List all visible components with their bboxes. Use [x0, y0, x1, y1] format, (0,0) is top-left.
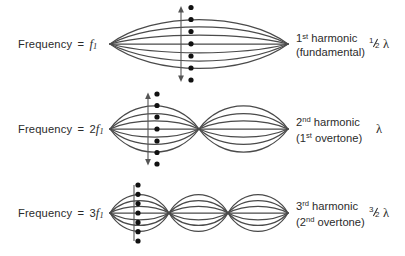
harmonic-row-2: Frequency = 2f1 [0, 86, 405, 172]
antinode-dots-2 [154, 91, 159, 166]
frequency-subscript-1: 1 [93, 42, 97, 51]
wavelength-fraction-1: 1 2 [369, 37, 382, 50]
equals-sign-1: = [75, 38, 86, 50]
frequency-word-3: Frequency [18, 207, 72, 219]
frequency-word-1: Frequency [18, 38, 72, 50]
harmonic-label-2: 2nd harmonic (1st overtone) [296, 113, 362, 144]
wave-curves-1 [110, 20, 288, 69]
lambda-symbol-1: λ [383, 37, 389, 51]
equals-sign-3: = [75, 207, 86, 219]
overtone-text-1: (fundamental) [296, 45, 365, 58]
harmonic-row-1: Frequency = f1 [0, 0, 405, 88]
harmonic-ordinal-1: st [302, 32, 308, 41]
frequency-label-2: Frequency = 2f1 [18, 122, 104, 137]
overtone-ordinal-2: st [306, 131, 312, 140]
overtone-word-2: overtone [315, 131, 359, 143]
antinode-dots-1 [188, 5, 193, 83]
overtone-ordinal-3: nd [306, 215, 314, 224]
wavelength-fraction-3: 3 2 [369, 206, 382, 219]
overtone-word-3: overtone [318, 215, 362, 227]
lambda-symbol-3: λ [383, 206, 389, 220]
harmonic-ordinal-2: nd [302, 115, 310, 124]
overtone-text-3: (2nd overtone) [296, 213, 365, 229]
harmonic-ordinal-3: rd [302, 199, 309, 208]
frequency-word-2: Frequency [18, 123, 72, 135]
harmonics-diagram: Frequency = f1 [0, 0, 405, 256]
antinode-dots-3 [135, 182, 140, 243]
lambda-symbol-2: λ [376, 122, 382, 136]
frequency-label-1: Frequency = f1 [18, 37, 97, 52]
wavelength-numerator-1: 1 [369, 36, 373, 45]
wavelength-denominator-3: 2 [375, 210, 379, 219]
frequency-label-3: Frequency = 3f1 [18, 206, 104, 221]
wavelength-numerator-3: 3 [369, 205, 373, 214]
overtone-text-2: (1st overtone) [296, 129, 362, 145]
harmonic-label-1: 1st harmonic (fundamental) [296, 30, 365, 59]
wavelength-label-2: λ [375, 122, 382, 137]
wave-graphic-3 [100, 170, 300, 256]
wave-curves-2 [110, 106, 288, 152]
harmonic-word-2: harmonic [314, 116, 360, 128]
harmonic-row-3: Frequency = 3f1 [0, 170, 405, 256]
equals-sign-2: = [75, 123, 86, 135]
wavelength-denominator-1: 2 [375, 41, 379, 50]
harmonic-label-3: 3rd harmonic (2nd overtone) [296, 197, 365, 228]
harmonic-word-1: harmonic [311, 32, 357, 44]
wave-graphic-2 [100, 86, 300, 172]
wave-graphic-1 [100, 0, 300, 88]
harmonic-word-3: harmonic [312, 200, 358, 212]
wavelength-label-1: 1 2 λ [369, 37, 389, 52]
wavelength-label-3: 3 2 λ [369, 206, 389, 221]
